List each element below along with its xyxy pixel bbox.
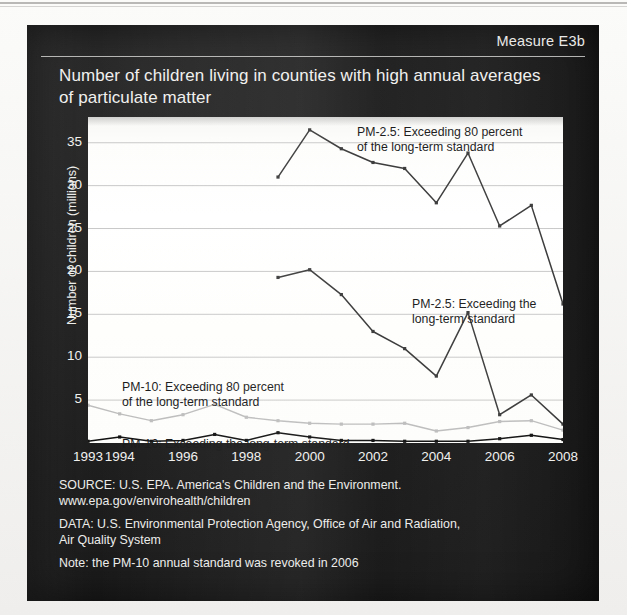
- series-marker-3: [118, 435, 121, 438]
- series-marker-1: [340, 293, 343, 296]
- series-marker-3: [435, 440, 438, 443]
- series-marker-0: [561, 302, 563, 305]
- annotation-pm10-80: PM-10: Exceeding 80 percent of the long-…: [122, 380, 284, 410]
- series-marker-2: [403, 422, 406, 425]
- y-tick-30: 30: [67, 177, 82, 192]
- x-tick-2006: 2006: [478, 449, 522, 464]
- series-line-1: [278, 270, 563, 424]
- series-marker-1: [403, 347, 406, 350]
- measure-label: Measure E3b: [497, 33, 585, 49]
- series-marker-2: [561, 429, 563, 432]
- series-marker-0: [340, 147, 343, 150]
- chart-panel: Measure E3b Number of children living in…: [27, 25, 599, 601]
- series-marker-0: [435, 201, 438, 204]
- series-marker-1: [308, 268, 311, 271]
- series-marker-2: [118, 412, 121, 415]
- annotation-pm10-standard: PM-10: Exceeding the long-term standard: [122, 437, 350, 452]
- scan-artifact-line-top-2: [0, 6, 627, 7]
- series-marker-3: [403, 440, 406, 443]
- scan-artifact-line-top: [0, 2, 627, 4]
- series-marker-2: [435, 429, 438, 432]
- series-marker-1: [530, 393, 533, 396]
- x-tick-2008: 2008: [541, 449, 585, 464]
- series-marker-2: [150, 419, 153, 422]
- series-marker-3: [88, 440, 90, 443]
- series-marker-1: [276, 276, 279, 279]
- y-tick-20: 20: [67, 262, 82, 277]
- scanned-page: Measure E3b Number of children living in…: [0, 0, 627, 615]
- y-tick-35: 35: [67, 134, 82, 149]
- annotation-pm25-80: PM-2.5: Exceeding 80 percent of the long…: [357, 125, 522, 155]
- series-marker-0: [403, 167, 406, 170]
- page-title: Number of children living in counties wi…: [59, 65, 559, 109]
- series-marker-2: [498, 420, 501, 423]
- series-marker-2: [340, 423, 343, 426]
- series-marker-1: [371, 330, 374, 333]
- series-marker-2: [88, 404, 90, 407]
- series-marker-3: [466, 440, 469, 443]
- footer-note: Note: the PM-10 annual standard was revo…: [59, 556, 359, 572]
- series-marker-0: [276, 175, 279, 178]
- series-marker-3: [498, 437, 501, 440]
- series-marker-3: [213, 433, 216, 436]
- x-tick-2004: 2004: [414, 449, 458, 464]
- footer-data: DATA: U.S. Environmental Protection Agen…: [59, 517, 460, 548]
- series-marker-2: [276, 419, 279, 422]
- y-tick-25: 25: [67, 220, 82, 235]
- series-marker-3: [276, 431, 279, 434]
- series-marker-2: [181, 413, 184, 416]
- series-marker-2: [245, 416, 248, 419]
- series-marker-3: [371, 439, 374, 442]
- x-tick-2002: 2002: [351, 449, 395, 464]
- series-marker-2: [530, 419, 533, 422]
- series-marker-3: [530, 434, 533, 437]
- series-marker-2: [308, 422, 311, 425]
- series-marker-0: [308, 128, 311, 131]
- series-marker-1: [435, 374, 438, 377]
- y-tick-15: 15: [67, 305, 82, 320]
- series-marker-2: [466, 426, 469, 429]
- header-divider: [41, 56, 585, 57]
- series-marker-3: [561, 438, 563, 441]
- y-tick-5: 5: [74, 391, 82, 406]
- series-marker-0: [371, 161, 374, 164]
- series-marker-1: [561, 423, 563, 426]
- series-marker-2: [371, 423, 374, 426]
- annotation-pm25-standard: PM-2.5: Exceeding the long-term standard: [412, 297, 536, 327]
- series-marker-0: [530, 204, 533, 207]
- series-marker-1: [498, 413, 501, 416]
- series-marker-0: [498, 224, 501, 227]
- footer-source: SOURCE: U.S. EPA. America's Children and…: [59, 478, 401, 509]
- y-tick-10: 10: [67, 348, 82, 363]
